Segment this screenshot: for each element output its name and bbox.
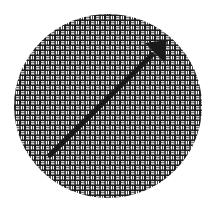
woven-circle (14, 14, 202, 198)
figure-canvas (0, 0, 216, 213)
